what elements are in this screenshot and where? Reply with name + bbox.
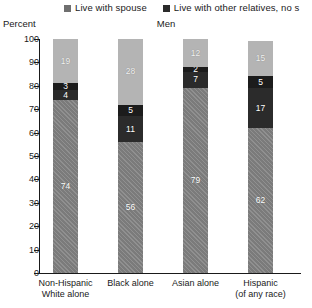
- y-tick-label: 30: [7, 199, 39, 208]
- x-axis-label-line2: (of any race): [218, 289, 304, 300]
- y-tick: 60: [0, 133, 39, 134]
- square-swatch-icon: [64, 5, 71, 12]
- bar-segment-value: 11: [126, 125, 135, 134]
- x-axis-line: [39, 273, 301, 274]
- bar-segment[interactable]: 15: [248, 41, 273, 76]
- bar-segment[interactable]: 4: [53, 90, 78, 99]
- bar-segment[interactable]: 74: [53, 100, 78, 273]
- x-axis-label-line1: Asian alone: [172, 278, 219, 288]
- bar-segment-value: 56: [126, 203, 135, 212]
- y-tick-label: 70: [7, 105, 39, 114]
- bar-segment-value: 15: [256, 54, 265, 63]
- bar-segment-value: 3: [63, 83, 68, 90]
- y-tick-label: 10: [7, 246, 39, 255]
- y-tick: 70: [0, 109, 39, 110]
- x-axis-label-line2: White alone: [23, 289, 109, 300]
- bar[interactable]: 6217515: [248, 39, 273, 273]
- legend-label: Live with spouse: [75, 3, 147, 13]
- bar-segment[interactable]: 28: [118, 39, 143, 105]
- y-tick: 20: [0, 226, 39, 227]
- bar-segment[interactable]: 5: [118, 105, 143, 117]
- y-tick: 80: [0, 86, 39, 87]
- bar-segment[interactable]: 79: [183, 88, 208, 273]
- plot-area: 1009080706050403020100 74431956115287972…: [0, 34, 312, 308]
- y-tick-label: 0: [7, 269, 39, 278]
- bar[interactable]: 797212: [183, 39, 208, 273]
- bar-segment[interactable]: 3: [53, 83, 78, 90]
- bar-segment-value: 5: [128, 106, 133, 115]
- bar-segment[interactable]: 2: [183, 67, 208, 72]
- x-axis-label-line1: Hispanic: [243, 278, 278, 288]
- bar[interactable]: 5611528: [118, 39, 143, 273]
- y-tick: 90: [0, 62, 39, 63]
- y-tick-label: 80: [7, 82, 39, 91]
- x-axis-label-line1: Non-Hispanic: [38, 278, 92, 288]
- chart-legend: Live with spouse Live with other relativ…: [0, 1, 312, 15]
- bar-segment-value: 19: [61, 57, 70, 66]
- y-tick: 50: [0, 156, 39, 157]
- bar-segment-value: 79: [191, 176, 200, 185]
- bar-segment-value: 62: [256, 196, 265, 205]
- stacked-bar-chart: Live with spouse Live with other relativ…: [0, 0, 312, 308]
- bar-segment[interactable]: 19: [53, 39, 78, 83]
- y-tick: 40: [0, 179, 39, 180]
- bar-segment-value: 17: [256, 104, 265, 113]
- y-tick: 100: [0, 39, 39, 40]
- y-tick: 10: [0, 250, 39, 251]
- bar[interactable]: 744319: [53, 39, 78, 273]
- bar-segment-value: 74: [61, 182, 70, 191]
- bar-segment[interactable]: 5: [248, 76, 273, 88]
- legend-item-live-with-spouse[interactable]: Live with spouse: [64, 3, 147, 13]
- bar-segment[interactable]: 7: [183, 72, 208, 88]
- x-axis-label: Hispanic(of any race): [218, 278, 304, 300]
- bar-segment[interactable]: 12: [183, 39, 208, 67]
- y-tick-label: 50: [7, 152, 39, 161]
- bar-segment-value: 5: [258, 78, 263, 87]
- y-tick-label: 40: [7, 175, 39, 184]
- y-tick-label: 100: [7, 35, 39, 44]
- bar-segment[interactable]: 11: [118, 116, 143, 142]
- x-axis-labels: Non-HispanicWhite aloneBlack aloneAsian …: [39, 278, 301, 308]
- y-tick: 30: [0, 203, 39, 204]
- bar-segment[interactable]: 17: [248, 88, 273, 128]
- y-tick: 0: [0, 273, 39, 274]
- bar-segment-value: 28: [126, 67, 135, 76]
- y-tick-label: 90: [7, 58, 39, 67]
- bar-segment-value: 4: [63, 91, 68, 100]
- y-tick-label: 20: [7, 222, 39, 231]
- bar-segment-value: 12: [191, 49, 200, 58]
- y-tick-label: 60: [7, 129, 39, 138]
- bar-segment-value: 7: [193, 75, 198, 84]
- x-axis-label-line1: Black alone: [107, 278, 154, 288]
- bar-group: 74431956115287972126217515: [39, 39, 301, 273]
- bar-segment[interactable]: 62: [248, 128, 273, 273]
- legend-label: Live with other relatives, no s: [174, 3, 300, 13]
- chart-title: Men: [0, 18, 312, 29]
- bar-segment-value: 2: [193, 67, 198, 72]
- legend-item-live-with-other-relatives[interactable]: Live with other relatives, no s: [163, 3, 300, 13]
- bar-segment[interactable]: 56: [118, 142, 143, 273]
- square-swatch-icon: [163, 5, 170, 12]
